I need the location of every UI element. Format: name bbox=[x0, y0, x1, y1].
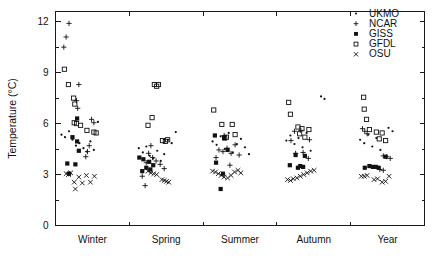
point-giss bbox=[151, 163, 155, 167]
point-giss bbox=[140, 169, 144, 173]
point-osu bbox=[225, 176, 230, 181]
point-gfdl bbox=[85, 128, 89, 132]
point-ukmo bbox=[75, 145, 77, 147]
x-category-label: Spring bbox=[152, 234, 181, 245]
y-tick-label: 6 bbox=[43, 118, 49, 129]
point-ncar bbox=[85, 149, 90, 154]
point-gfdl bbox=[364, 117, 368, 121]
dot-icon bbox=[355, 12, 357, 14]
point-ukmo bbox=[89, 140, 91, 142]
point-giss bbox=[363, 166, 367, 170]
cross-icon bbox=[354, 52, 358, 56]
point-ncar bbox=[360, 126, 365, 131]
point-ukmo bbox=[228, 132, 230, 134]
point-ncar bbox=[227, 163, 232, 168]
point-gfdl bbox=[233, 133, 237, 137]
point-ukmo bbox=[211, 140, 213, 142]
point-ukmo bbox=[305, 132, 307, 134]
series-giss bbox=[65, 116, 388, 191]
point-ncar bbox=[89, 117, 94, 122]
legend-label: OSU bbox=[369, 48, 391, 59]
legend: UKMONCARGISSGFDLOSU bbox=[354, 8, 400, 60]
point-gfdl bbox=[146, 123, 150, 127]
point-ncar bbox=[237, 152, 242, 157]
point-giss bbox=[384, 155, 388, 159]
y-tick-label: 9 bbox=[43, 67, 49, 78]
point-giss bbox=[214, 161, 218, 165]
point-ukmo bbox=[156, 150, 158, 152]
point-osu bbox=[239, 171, 244, 176]
point-ukmo bbox=[163, 153, 165, 155]
point-gfdl bbox=[212, 108, 216, 112]
point-osu bbox=[88, 180, 93, 185]
series-osu bbox=[64, 168, 392, 191]
point-giss bbox=[219, 187, 223, 191]
point-ukmo bbox=[171, 142, 173, 144]
point-gfdl bbox=[380, 131, 384, 135]
x-axis-category-labels: WinterSpringSummerAutumnYear bbox=[78, 234, 398, 245]
point-ncar bbox=[87, 143, 92, 148]
point-ukmo bbox=[301, 146, 303, 148]
point-ncar bbox=[381, 168, 386, 173]
point-ukmo bbox=[387, 127, 389, 129]
point-ukmo bbox=[363, 142, 365, 144]
point-osu bbox=[80, 181, 85, 186]
point-ncar bbox=[307, 137, 312, 142]
point-osu bbox=[72, 180, 77, 185]
point-giss bbox=[288, 163, 292, 167]
point-gfdl bbox=[303, 135, 307, 139]
point-osu bbox=[383, 179, 388, 184]
point-ncar bbox=[140, 174, 145, 179]
point-ncar bbox=[154, 158, 159, 163]
point-giss bbox=[377, 166, 381, 170]
point-ukmo bbox=[297, 137, 299, 139]
series-ukmo bbox=[60, 95, 393, 162]
point-giss bbox=[65, 161, 69, 165]
temperature-scatter-figure: 036912 WinterSpringSummerAutumnYear Temp… bbox=[0, 0, 436, 260]
point-ukmo bbox=[320, 95, 322, 97]
point-ncar bbox=[162, 166, 167, 171]
x-category-label: Winter bbox=[78, 234, 108, 245]
point-osu bbox=[73, 187, 78, 192]
point-osu bbox=[92, 174, 97, 179]
point-ukmo bbox=[160, 160, 162, 162]
point-giss bbox=[141, 157, 145, 161]
point-ukmo bbox=[60, 134, 62, 136]
point-ukmo bbox=[145, 145, 147, 147]
point-gfdl bbox=[287, 100, 291, 104]
point-ukmo bbox=[244, 146, 246, 148]
point-ukmo bbox=[220, 135, 222, 137]
point-gfdl bbox=[66, 82, 70, 86]
y-tick-label: 0 bbox=[43, 220, 49, 231]
point-ukmo bbox=[323, 98, 325, 100]
series-gfdl bbox=[62, 67, 387, 143]
x-category-label: Summer bbox=[221, 234, 259, 245]
point-giss bbox=[75, 116, 79, 120]
point-ukmo bbox=[379, 149, 381, 151]
point-ukmo bbox=[82, 147, 84, 149]
point-ncar bbox=[76, 82, 81, 87]
point-gfdl bbox=[384, 138, 388, 142]
point-giss bbox=[213, 133, 217, 137]
point-ukmo bbox=[248, 153, 250, 155]
point-giss bbox=[137, 155, 141, 159]
point-ukmo bbox=[293, 143, 295, 145]
point-ncar bbox=[66, 21, 71, 26]
point-gfdl bbox=[307, 127, 311, 131]
point-ncar bbox=[148, 143, 153, 148]
point-giss bbox=[296, 166, 300, 170]
point-gfdl bbox=[362, 107, 366, 111]
x-category-label: Year bbox=[377, 234, 398, 245]
point-ukmo bbox=[138, 147, 140, 149]
point-gfdl bbox=[78, 123, 82, 127]
point-osu bbox=[387, 174, 392, 179]
point-ukmo bbox=[64, 136, 66, 138]
point-ukmo bbox=[240, 138, 242, 140]
point-ukmo bbox=[371, 145, 373, 147]
point-ncar bbox=[158, 162, 163, 167]
y-tick-label: 12 bbox=[37, 16, 49, 27]
point-ncar bbox=[143, 183, 148, 188]
point-osu bbox=[77, 175, 82, 180]
point-gfdl bbox=[230, 122, 234, 126]
open-square-icon bbox=[354, 42, 358, 46]
